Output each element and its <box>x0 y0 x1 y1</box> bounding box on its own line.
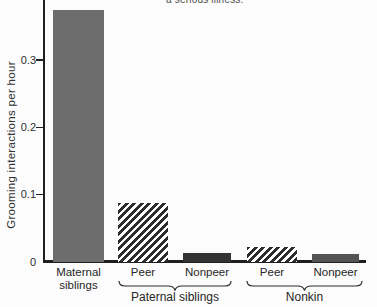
y-axis-line <box>43 0 45 262</box>
y-tick-label: 0.3 <box>8 54 36 66</box>
bar-nonkin-peer <box>247 247 297 262</box>
bar-chart-figure: a serious illness. Grooming interactions… <box>0 0 377 307</box>
x-label-nonkin-nonpeer: Nonpeer <box>291 266 377 279</box>
y-tick-label: 0 <box>8 256 36 268</box>
y-axis-label: Grooming interactions per hour <box>5 35 21 255</box>
x-label-line: Nonpeer <box>291 266 377 279</box>
group-label-nonkin: Nonkin <box>244 290 365 304</box>
y-tick-mark <box>36 59 43 61</box>
y-tick-label: 0.1 <box>8 188 36 200</box>
y-tick-mark <box>36 127 43 129</box>
caption-fragment: a serious illness. <box>166 0 244 5</box>
bar-maternal-siblings <box>53 10 104 262</box>
bar-paternal-peer <box>118 203 168 262</box>
group-label-paternal-siblings: Paternal siblings <box>113 290 237 304</box>
bar-paternal-nonpeer <box>183 253 231 262</box>
y-tick-mark <box>36 194 43 196</box>
y-tick-label: 0.2 <box>8 121 36 133</box>
bar-nonkin-nonpeer <box>312 254 359 262</box>
x-label-line: siblings <box>34 279 124 292</box>
